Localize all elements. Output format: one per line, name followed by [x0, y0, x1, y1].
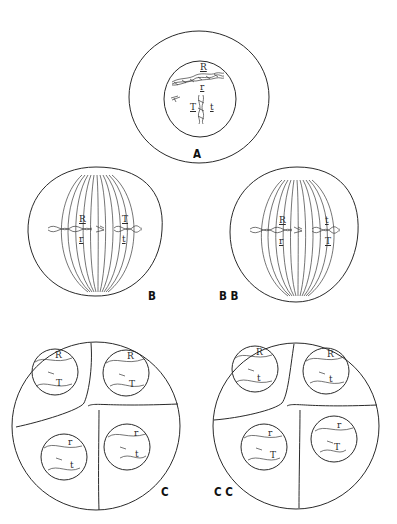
gene-label-cc-cell4-top: r [337, 421, 341, 430]
gene-label-b-right-top: T [122, 215, 128, 224]
gene-label-c-cell4-top: r [134, 429, 138, 438]
gene-label-bb-left-bottom: r [279, 237, 283, 246]
panel-b-cell [28, 167, 162, 296]
gene-label-a-R: R [200, 63, 207, 72]
gene-label-cc-cell3-top: r [268, 429, 272, 438]
gene-label-cc-cell1-bottom: t [257, 374, 261, 383]
gene-label-c-cell2-top: R [127, 352, 134, 361]
panel-label-c: C [161, 484, 169, 499]
panel-a-cell [129, 31, 269, 163]
gene-label-c-cell1-bottom: T [56, 379, 62, 388]
gene-label-a-T: T [190, 103, 196, 112]
panel-cc-tetrad [213, 343, 379, 509]
gene-label-b-right-bottom: t [122, 235, 126, 244]
gene-label-cc-cell4-bottom: T [334, 443, 340, 452]
gene-label-c-cell2-bottom: T [129, 380, 135, 389]
gene-label-a-t: t [210, 103, 214, 112]
gene-label-cc-cell1-top: R [256, 348, 263, 357]
panel-label-a: A [193, 146, 201, 161]
gene-label-b-left-top: R [79, 215, 86, 224]
panel-c-tetrad [12, 342, 180, 510]
panel-label-b: B [148, 288, 156, 303]
gene-label-c-cell3-bottom: t [70, 461, 74, 470]
gene-label-c-cell1-top: R [55, 351, 62, 360]
gene-label-bb-right-bottom: T [325, 237, 331, 246]
gene-label-c-cell4-bottom: t [135, 450, 139, 459]
gene-label-cc-cell3-bottom: T [270, 451, 276, 460]
gene-label-cc-cell2-top: R [327, 350, 334, 359]
gene-label-c-cell3-top: r [68, 438, 72, 447]
gene-label-a-r: r [200, 83, 204, 92]
panel-label-bb: B B [219, 288, 238, 303]
panel-label-cc: C C [214, 484, 233, 499]
gene-label-cc-cell2-bottom: t [329, 375, 333, 384]
gene-label-b-left-bottom: r [79, 235, 83, 244]
panel-bb-cell [230, 167, 358, 302]
gene-label-bb-left-top: R [279, 216, 286, 225]
gene-label-bb-right-top: t [325, 216, 329, 225]
